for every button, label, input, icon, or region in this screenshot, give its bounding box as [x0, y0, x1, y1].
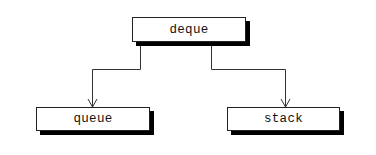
edge-deque-stack [212, 44, 291, 107]
node-queue: queue [36, 107, 150, 131]
node-label: stack [264, 112, 303, 126]
node-stack: stack [227, 107, 340, 131]
node-deque: deque [132, 17, 246, 42]
diagram-canvas: deque queue stack [0, 0, 376, 155]
node-label: queue [73, 112, 112, 126]
edge-deque-queue [88, 44, 141, 107]
node-label: deque [169, 23, 208, 37]
